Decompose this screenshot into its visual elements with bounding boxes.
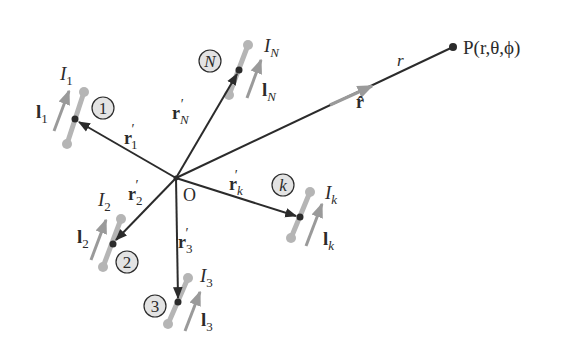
current-elements-diagram: r P(r,θ,ϕ) r̂ 1 I1 l1 r1′ N IN lN rN′ k … (0, 0, 577, 355)
unit-vector-r-hat-label: r̂ (356, 92, 364, 112)
current-label-3: I3 (199, 265, 213, 290)
origin-label: O (183, 185, 196, 205)
length-label-3: l3 (201, 309, 213, 334)
direction-arrow-3 (185, 292, 200, 331)
current-label-2: I2 (97, 189, 111, 214)
element-id-k: k (279, 176, 287, 195)
length-label-2: l2 (77, 226, 89, 251)
current-label-1: I1 (59, 63, 73, 88)
current-element-3: 3 (144, 273, 200, 331)
current-element-1: 1 (54, 87, 114, 149)
position-label-N: rN′ (172, 97, 190, 127)
position-label-3: r3′ (178, 226, 193, 256)
direction-arrow-2 (91, 220, 106, 260)
point-p-dot (449, 43, 457, 51)
point-p-label: P(r,θ,ϕ) (463, 37, 520, 59)
position-label-k: rk′ (229, 168, 243, 198)
unit-vector-r-hat (330, 86, 372, 105)
position-label-1: r1′ (124, 122, 138, 152)
direction-arrow-1 (54, 91, 69, 131)
current-element-N: N (199, 40, 261, 100)
current-label-N: IN (263, 35, 280, 60)
position-label-2: r2′ (128, 178, 143, 208)
direction-arrow-k (306, 204, 322, 246)
origin-dot (174, 176, 179, 181)
direction-arrow-N (247, 60, 261, 98)
element-id-1: 1 (99, 99, 108, 118)
position-vector-r2 (116, 178, 176, 240)
element-id-2: 2 (123, 253, 132, 272)
element-id-3: 3 (151, 297, 160, 316)
element-id-N: N (203, 52, 217, 71)
distance-r-label: r (397, 51, 404, 70)
length-label-1: l1 (36, 101, 48, 126)
length-label-k: lk (323, 228, 334, 253)
current-label-k: Ik (324, 182, 337, 207)
length-label-N: lN (262, 79, 277, 104)
